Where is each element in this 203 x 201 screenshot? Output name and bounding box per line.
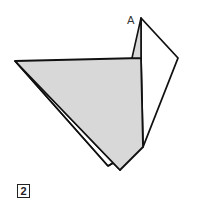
step-number-badge: 2 bbox=[17, 184, 30, 198]
colored-main-face bbox=[15, 58, 143, 170]
origami-diagram bbox=[0, 0, 203, 201]
right-white-flap bbox=[141, 18, 178, 147]
point-a-label: A bbox=[127, 14, 135, 27]
